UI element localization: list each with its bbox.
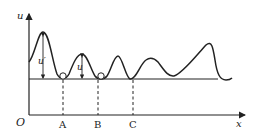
- point-b-label: B: [94, 119, 101, 130]
- point-c-label: C: [129, 119, 137, 130]
- origin-label: O: [16, 116, 25, 129]
- diagram-canvas: u x O A B C u′ u: [0, 0, 261, 139]
- u-label: u: [77, 62, 83, 72]
- x-axis-label: x: [236, 118, 242, 129]
- particle-a: [60, 73, 66, 79]
- y-axis-label: u: [17, 10, 23, 21]
- particle-b: [98, 73, 104, 79]
- wave-curve: [29, 32, 232, 80]
- point-a-label: A: [58, 119, 67, 130]
- u-prime-label: u′: [38, 56, 46, 66]
